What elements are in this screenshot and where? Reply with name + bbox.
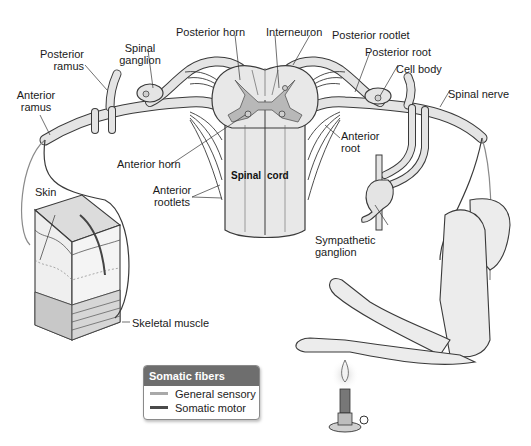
legend-item-general-sensory: General sensory: [150, 387, 259, 400]
spinal-cord: [212, 66, 318, 238]
label-posterior-root: Posterior root: [365, 46, 431, 58]
label-spinal-ganglion-line2: ganglion: [116, 54, 164, 66]
candle: [329, 359, 368, 432]
label-spinal-ganglion-line1: Spinal: [116, 42, 164, 54]
label-anterior-root-line2: root: [341, 142, 360, 154]
sympathetic-ganglion: [362, 155, 394, 230]
legend-title: Somatic fibers: [144, 366, 259, 386]
label-skin: Skin: [35, 186, 56, 198]
legend-label: General sensory: [175, 388, 256, 400]
label-posterior-rootlet: Posterior rootlet: [332, 29, 410, 41]
legend-swatch-motor: [150, 406, 168, 409]
label-anterior-root-line1: Anterior: [341, 130, 380, 142]
label-interneuron: Interneuron: [266, 26, 322, 38]
diagram-canvas: Posterior horn Interneuron Posterior roo…: [0, 0, 531, 446]
legend-label: Somatic motor: [175, 402, 246, 414]
arm: [296, 199, 510, 365]
label-anterior-ramus-line1: Anterior: [14, 89, 58, 101]
label-spinal-cord-left: Spinal: [231, 170, 261, 181]
label-spinal-nerve: Spinal nerve: [448, 88, 509, 100]
legend: Somatic fibers General sensory Somatic m…: [143, 365, 260, 420]
label-sympathetic-ganglion-line1: Sympathetic: [315, 234, 376, 246]
label-skeletal-muscle: Skeletal muscle: [132, 317, 209, 329]
legend-item-somatic-motor: Somatic motor: [150, 401, 259, 414]
label-posterior-ramus-line1: Posterior: [40, 48, 84, 60]
skin-block: [35, 195, 120, 340]
legend-swatch-sensory: [150, 392, 168, 395]
label-spinal-cord-right: cord: [267, 170, 289, 181]
label-cell-body: Cell body: [396, 63, 442, 75]
spinal-ganglion-left: [137, 84, 163, 102]
label-anterior-horn: Anterior horn: [117, 158, 181, 170]
label-anterior-ramus-line2: ramus: [14, 101, 58, 113]
label-posterior-horn: Posterior horn: [176, 26, 245, 38]
label-posterior-ramus-line2: ramus: [40, 60, 84, 72]
label-anterior-rootlets-line2: rootlets: [150, 196, 194, 208]
label-sympathetic-ganglion-line2: ganglion: [315, 246, 357, 258]
label-anterior-rootlets-line1: Anterior: [150, 184, 194, 196]
